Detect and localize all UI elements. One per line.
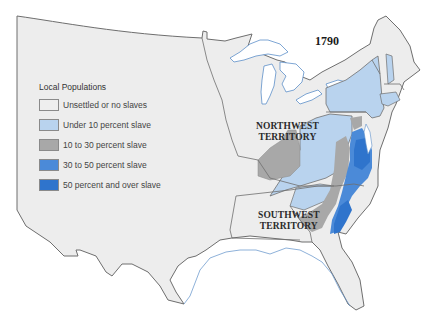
legend-item-under-10: Under 10 percent slave (39, 118, 161, 132)
legend-label: 30 to 50 percent slave (63, 160, 147, 170)
northwest-line2: TERRITORY (256, 132, 319, 143)
southwest-line1: SOUTHWEST (258, 210, 320, 221)
legend-label: Unsettled or no slaves (63, 100, 147, 110)
northwest-line1: NORTHWEST (256, 121, 319, 132)
legend-item-10-30: 10 to 30 percent slave (39, 138, 161, 152)
swatch-under-10 (39, 119, 59, 131)
legend-item-unsettled: Unsettled or no slaves (39, 98, 161, 112)
year-label: 1790 (315, 34, 339, 49)
legend-title: Local Populations (39, 82, 161, 92)
legend: Local Populations Unsettled or no slaves… (39, 82, 161, 198)
legend-item-50-plus: 50 percent and over slave (39, 178, 161, 192)
swatch-50-plus (39, 179, 59, 191)
legend-label: 50 percent and over slave (63, 180, 161, 190)
region-under-10-ri-ct (380, 92, 400, 106)
swatch-unsettled (39, 99, 59, 111)
northwest-territory-label: NORTHWEST TERRITORY (256, 121, 319, 143)
slave-population-map-1790: 1790 NORTHWEST TERRITORY SOUTHWEST TERRI… (0, 0, 440, 318)
swatch-10-30 (39, 139, 59, 151)
legend-label: 10 to 30 percent slave (63, 140, 147, 150)
southwest-territory-label: SOUTHWEST TERRITORY (258, 210, 320, 232)
swatch-30-50 (39, 159, 59, 171)
southwest-line2: TERRITORY (258, 221, 320, 232)
legend-label: Under 10 percent slave (63, 120, 151, 130)
legend-item-30-50: 30 to 50 percent slave (39, 158, 161, 172)
